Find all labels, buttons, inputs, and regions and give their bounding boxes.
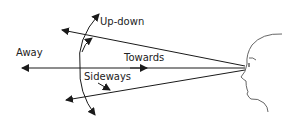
eye-movement-diagram: Away Towards Up-down Sideways — [0, 0, 296, 124]
sideways-arrow — [98, 83, 110, 90]
up-small-arrow — [82, 38, 92, 52]
towards-label: Towards — [123, 52, 164, 63]
sideways-label: Sideways — [84, 71, 131, 82]
up-down-label: Up-down — [100, 16, 144, 27]
away-label: Away — [16, 47, 43, 58]
head-profile — [241, 34, 282, 112]
